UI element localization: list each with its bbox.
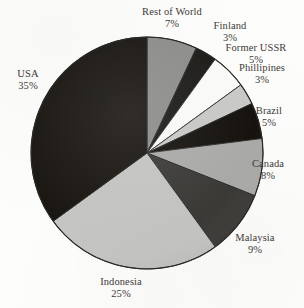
slice-label-name: Indonesia: [82, 276, 160, 288]
slice-label-usa: USA 35%: [6, 68, 50, 93]
slice-label-value: 9%: [222, 244, 288, 256]
chart-area: Rest of World 7% Finland 3% Former USSR …: [0, 0, 304, 308]
slice-label-name: Phillipines: [226, 62, 298, 74]
slice-label-brazil: Brazil 5%: [244, 105, 294, 130]
slice-label-name: Malaysia: [222, 232, 288, 244]
slice-label-name: Finland: [204, 20, 256, 32]
slice-label-name: Canada: [240, 158, 296, 170]
slice-label-name: USA: [6, 68, 50, 80]
slice-label-phillipines: Phillipines 3%: [226, 62, 298, 87]
slice-label-malaysia: Malaysia 9%: [222, 232, 288, 257]
slice-label-name: Brazil: [244, 105, 294, 117]
slice-label-value: 35%: [6, 80, 50, 92]
slice-label-value: 5%: [244, 117, 294, 129]
slice-label-canada: Canada 8%: [240, 158, 296, 183]
slice-label-value: 3%: [226, 74, 298, 86]
slice-label-name: Rest of World: [126, 6, 218, 18]
slice-label-name: Former USSR: [212, 42, 300, 54]
slice-label-value: 8%: [240, 170, 296, 182]
pie-chart-figure: Rest of World 7% Finland 3% Former USSR …: [0, 0, 304, 308]
slice-label-value: 25%: [82, 288, 160, 300]
slice-label-indonesia: Indonesia 25%: [82, 276, 160, 301]
